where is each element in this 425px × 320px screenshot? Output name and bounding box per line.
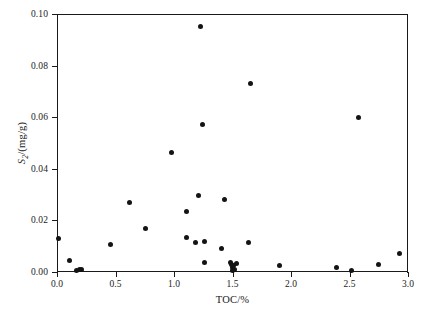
y-tick-label: 0.10 bbox=[31, 9, 48, 19]
x-tick-label: 1.5 bbox=[226, 279, 238, 289]
data-point bbox=[202, 239, 207, 244]
y-tick-label: 0.06 bbox=[31, 112, 48, 122]
data-point bbox=[248, 81, 253, 86]
x-tick bbox=[116, 272, 117, 277]
data-point bbox=[193, 240, 198, 245]
y-tick bbox=[52, 272, 57, 273]
y-tick bbox=[52, 117, 57, 118]
y-tick bbox=[52, 220, 57, 221]
y-tick-label: 0.00 bbox=[31, 267, 48, 277]
x-tick-label: 1.0 bbox=[168, 279, 180, 289]
y-tick bbox=[52, 66, 57, 67]
data-point bbox=[169, 150, 174, 155]
y-tick bbox=[52, 169, 57, 170]
x-tick-label: 2.5 bbox=[343, 279, 355, 289]
y-axis-label-symbol: S bbox=[16, 159, 27, 164]
x-tick-label: 3.0 bbox=[402, 279, 414, 289]
x-tick bbox=[174, 272, 175, 277]
x-tick-label: 2.0 bbox=[285, 279, 297, 289]
y-tick-label: 0.02 bbox=[31, 215, 48, 225]
data-point bbox=[127, 200, 132, 205]
data-point bbox=[234, 261, 239, 266]
data-point bbox=[196, 193, 201, 198]
data-point bbox=[349, 268, 354, 273]
y-tick-label: 0.04 bbox=[31, 164, 48, 174]
plot-area bbox=[57, 14, 408, 272]
x-tick bbox=[408, 272, 409, 277]
data-point bbox=[277, 263, 282, 268]
y-axis-label: S2/(mg/g) bbox=[16, 122, 30, 164]
x-tick bbox=[57, 272, 58, 277]
scatter-chart-figure: 0.00.51.01.52.02.53.0 0.000.020.040.060.… bbox=[0, 0, 425, 320]
x-axis-label: TOC/% bbox=[57, 294, 408, 305]
y-tick-label: 0.08 bbox=[31, 61, 48, 71]
x-tick-label: 0.0 bbox=[51, 279, 63, 289]
plot-right-spine bbox=[407, 14, 408, 273]
y-tick bbox=[52, 14, 57, 15]
plot-top-spine bbox=[57, 14, 408, 15]
y-axis-label-subscript: 2 bbox=[21, 155, 30, 159]
x-tick bbox=[291, 272, 292, 277]
data-point bbox=[56, 236, 61, 241]
x-tick-label: 0.5 bbox=[109, 279, 121, 289]
y-axis-label-units: /(mg/g) bbox=[16, 122, 27, 155]
